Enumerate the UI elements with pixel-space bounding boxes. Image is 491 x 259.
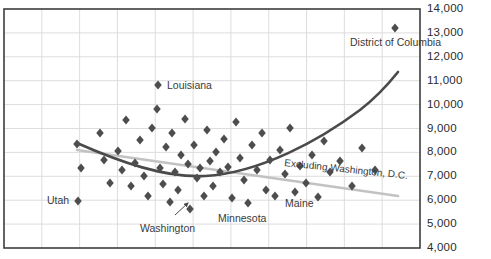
y-axis-tick-label: 10,000 — [427, 98, 463, 110]
y-axis-tick-label: 6,000 — [427, 193, 457, 205]
y-axis-tick-label: 12,000 — [427, 50, 463, 62]
maine-label: Maine — [285, 197, 314, 209]
y-axis-tick-label: 8,000 — [427, 145, 457, 157]
scatter-chart: 14,00013,00012,00011,00010,0009,0008,000… — [0, 0, 491, 259]
washington-label: Washington — [140, 222, 195, 234]
y-axis-tick-label: 9,000 — [427, 122, 457, 134]
district-of-columbia-label: District of Columbia — [350, 36, 441, 48]
louisiana-label: Louisiana — [167, 79, 212, 91]
utah-label: Utah — [47, 194, 69, 206]
y-axis-tick-label: 11,000 — [427, 74, 463, 86]
y-axis-tick-label: 7,000 — [427, 169, 457, 181]
y-axis-tick-label: 5,000 — [427, 217, 457, 229]
y-axis-tick-label: 14,000 — [427, 2, 463, 14]
y-axis-tick-label: 4,000 — [427, 241, 457, 253]
minnesota-label: Minnesota — [218, 212, 266, 224]
